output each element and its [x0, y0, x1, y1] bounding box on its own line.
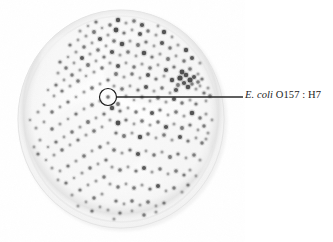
colony-dot: [174, 110, 178, 114]
colony-dot: [95, 117, 98, 120]
colony-dot: [122, 31, 125, 34]
colony-dot: [59, 170, 62, 173]
colony-dot: [192, 153, 196, 157]
colony-dot: [68, 43, 71, 46]
colony-dot: [112, 39, 116, 43]
colony-dot: [190, 82, 193, 85]
colony-dot: [60, 89, 63, 92]
colony-dot: [155, 34, 158, 37]
colony-dot: [63, 79, 66, 82]
colony-dot: [67, 56, 70, 59]
colony-dot: [99, 83, 102, 86]
colony-dot: [100, 66, 103, 69]
colony-dot: [106, 78, 109, 81]
colony-dot: [177, 75, 182, 80]
colony-dot: [144, 40, 147, 43]
colony-dot: [164, 125, 168, 129]
colony-dot: [79, 126, 82, 129]
colony-dot: [132, 186, 136, 190]
colony-dot: [166, 57, 170, 61]
colony-dot: [75, 160, 78, 163]
colony-dot: [195, 137, 198, 140]
colony-dot: [39, 139, 42, 142]
colony-dot: [70, 130, 73, 133]
colony-dot: [92, 196, 95, 199]
colony-dot: [154, 77, 157, 80]
petri-dish-photo: [0, 0, 333, 242]
colony-dot: [95, 180, 98, 183]
colony-dot: [176, 152, 179, 155]
colony-dot: [53, 154, 56, 157]
colony-dot: [53, 95, 56, 98]
colony-dot: [77, 205, 80, 208]
colony-dot: [171, 139, 174, 142]
colony-dot: [118, 168, 122, 172]
colony-dot: [150, 111, 154, 115]
colony-dot: [167, 173, 170, 176]
colony-dot: [130, 72, 133, 75]
colony-dot: [182, 173, 185, 176]
colony-dot: [69, 85, 72, 88]
colony-dot: [47, 146, 50, 149]
colony-dot: [148, 187, 151, 190]
colony-dot: [118, 109, 121, 112]
colony-dot: [192, 75, 196, 79]
colony-dot: [113, 218, 116, 221]
colony-dot: [114, 72, 118, 76]
colony-dot: [116, 185, 119, 188]
colony-dot: [86, 63, 90, 67]
colony-dot: [87, 25, 90, 28]
colony-dot: [106, 95, 109, 98]
colony-dot: [139, 77, 142, 80]
colony-dot: [108, 23, 111, 26]
colony-dot: [110, 50, 114, 54]
colony-dot: [107, 34, 110, 37]
colony-dot: [127, 107, 130, 110]
colony-dot: [102, 175, 105, 178]
colony-dot: [102, 55, 105, 58]
colony-dot: [119, 54, 122, 57]
colony-dot: [133, 99, 136, 102]
colony-dot: [81, 172, 84, 175]
colony-dot: [78, 188, 81, 191]
colony-dot: [190, 56, 194, 60]
colony-dot: [200, 141, 203, 144]
colony-dot: [177, 44, 180, 47]
colony-dot: [33, 146, 36, 149]
colony-dot: [205, 138, 208, 141]
species-name: E. coli: [245, 89, 273, 100]
colony-dot: [190, 111, 195, 116]
colony-dot: [118, 211, 121, 214]
colony-dot: [150, 55, 153, 58]
colony-dot: [101, 193, 104, 196]
colony-dot: [54, 83, 57, 86]
colony-dot: [107, 209, 110, 212]
colony-dot: [139, 204, 142, 207]
colony-dot: [174, 88, 178, 92]
colony-dot: [199, 159, 202, 162]
colony-dot: [86, 120, 90, 124]
colony-dot: [131, 132, 134, 135]
colony-dot: [101, 27, 104, 30]
colony-dot: [142, 51, 147, 56]
colony-dot: [116, 64, 120, 68]
colony-dot: [43, 104, 46, 107]
colony-dot: [45, 159, 48, 162]
colony-dot: [189, 99, 192, 102]
colony-dot: [146, 73, 150, 77]
colony-dot: [58, 60, 61, 63]
colony-dot: [83, 91, 86, 94]
colony-dot: [116, 102, 120, 106]
colony-dot: [85, 201, 88, 204]
colony-dot: [70, 73, 73, 76]
colony-dot: [205, 100, 208, 103]
figure-root: E. coli O157 : H7: [0, 0, 333, 242]
annotation-label: E. coli O157 : H7: [245, 89, 321, 101]
colony-dot: [158, 108, 161, 111]
colony-dot: [155, 205, 158, 208]
colony-dot: [114, 28, 119, 33]
colony-dot: [120, 42, 125, 47]
colony-dot: [178, 135, 182, 139]
colony-dot: [129, 40, 132, 43]
colony-dot: [146, 200, 150, 204]
